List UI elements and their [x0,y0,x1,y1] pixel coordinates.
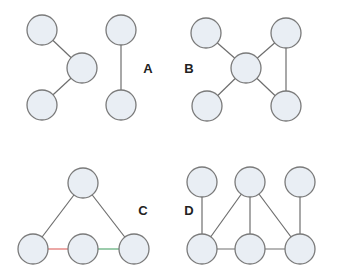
graph-label: D [184,203,193,218]
graph-node [192,91,222,121]
graph-node [285,234,315,264]
graph-node [106,90,136,120]
graph-label: A [143,61,153,76]
graph-a: A [27,15,153,120]
graph-node [231,53,261,83]
graph-label: B [184,61,193,76]
graph-c: C [18,168,149,264]
graph-node [27,90,57,120]
graph-node [68,234,98,264]
graph-b: B [184,18,301,121]
graph-node [271,91,301,121]
graph-node [68,168,98,198]
graph-node [67,53,97,83]
graph-node [235,234,265,264]
graph-node [235,167,265,197]
graph-node [18,234,48,264]
graph-node [187,234,217,264]
graph-label: C [138,203,148,218]
graph-node [27,15,57,45]
graph-node [285,167,315,197]
graph-node [271,18,301,48]
graph-node [187,167,217,197]
graph-node [119,234,149,264]
graph-node [191,18,221,48]
graph-d: D [184,167,315,264]
graph-diagram: A B C D [0,0,353,278]
graph-node [106,15,136,45]
